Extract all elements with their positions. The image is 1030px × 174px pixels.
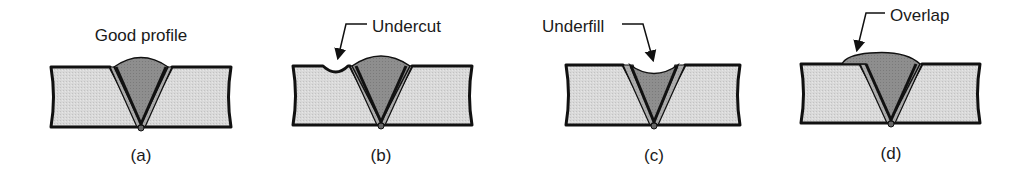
weld-root xyxy=(138,125,144,131)
undercut-leader-arrow xyxy=(338,24,367,58)
weld-root xyxy=(888,121,894,127)
caption-b: (b) xyxy=(371,146,392,165)
label-undercut: Undercut xyxy=(372,17,441,36)
weld-root xyxy=(378,123,384,129)
label-overlap: Overlap xyxy=(890,6,950,25)
underfill-leader-arrow xyxy=(622,24,653,60)
panel-b: Undercut (b) xyxy=(293,17,472,165)
panel-c: Underfill (c) xyxy=(542,17,740,165)
caption-c: (c) xyxy=(644,146,664,165)
label-good-profile: Good profile xyxy=(95,26,188,45)
caption-a: (a) xyxy=(131,146,152,165)
weld-root xyxy=(651,123,657,129)
overlap-leader-arrow xyxy=(857,13,885,50)
caption-d: (d) xyxy=(881,144,902,163)
panel-d: Overlap (d) xyxy=(801,6,980,163)
label-underfill: Underfill xyxy=(542,17,604,36)
weld-profiles-diagram: Good profile (a) Undercut (b) Underfill xyxy=(0,0,1030,174)
panel-a: Good profile (a) xyxy=(51,26,231,165)
